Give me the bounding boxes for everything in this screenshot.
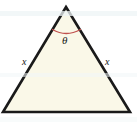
geometry-figure: θ x x — [0, 0, 137, 122]
right-side-length-label: x — [105, 57, 109, 67]
left-side-length-label: x — [22, 57, 26, 67]
triangle-canvas — [0, 0, 137, 122]
apex-angle-label: θ — [62, 35, 67, 46]
